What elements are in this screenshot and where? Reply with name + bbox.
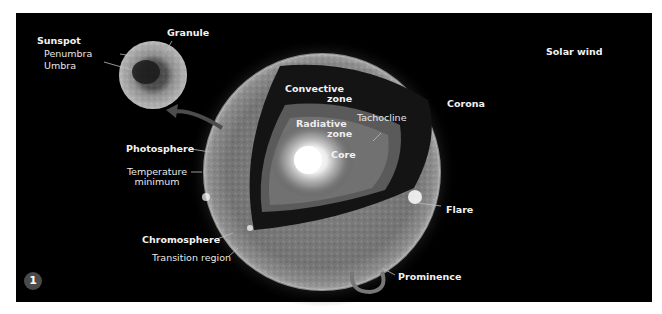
label-penumbra: Penumbra bbox=[44, 49, 92, 59]
label-granule: Granule bbox=[167, 28, 209, 38]
flare-spot bbox=[408, 190, 422, 204]
label-corona: Corona bbox=[447, 99, 485, 109]
label-tachocline: Tachocline bbox=[357, 113, 406, 123]
label-transition-region: Transition region bbox=[152, 253, 231, 263]
label-chromosphere: Chromosphere bbox=[142, 235, 220, 245]
label-umbra: Umbra bbox=[44, 61, 76, 71]
label-solar-wind: Solar wind bbox=[546, 47, 603, 57]
label-photosphere: Photosphere bbox=[126, 144, 194, 154]
label-flare: Flare bbox=[446, 205, 473, 215]
label-sunspot: Sunspot bbox=[37, 36, 81, 46]
label-temperature-minimum-2: minimum bbox=[126, 177, 188, 187]
arrow-head-icon bbox=[166, 104, 178, 118]
label-radiative-zone-2: zone bbox=[327, 129, 352, 139]
label-core: Core bbox=[331, 150, 356, 160]
figure-number-badge: 1 bbox=[24, 272, 42, 290]
label-convective-zone-2: zone bbox=[327, 94, 352, 104]
label-prominence: Prominence bbox=[398, 272, 461, 282]
